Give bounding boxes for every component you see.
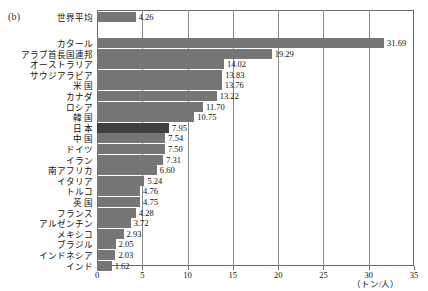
bar-20 — [97, 250, 115, 260]
bar-value-label: 13.22 — [220, 91, 239, 101]
bar-value-label: 4.75 — [143, 197, 158, 207]
bar-8 — [97, 123, 169, 133]
category-label-11: イラン — [0, 156, 93, 166]
plot-area: 4.2631.6919.2914.0213.8313.7613.2211.701… — [97, 10, 414, 266]
bar-value-label: 10.75 — [197, 112, 216, 122]
bar-row: 4.28 — [97, 208, 414, 218]
bar-value-label: 3.72 — [134, 218, 149, 228]
bar-6 — [97, 102, 203, 112]
bar-row: 2.05 — [97, 239, 414, 249]
x-tick-label: 10 — [183, 270, 192, 280]
category-label-14: トルコ — [0, 187, 93, 197]
bar-row: 7.95 — [97, 123, 414, 133]
category-label-21: インド — [0, 262, 93, 272]
bar-row: 3.72 — [97, 218, 414, 228]
category-label-16: フランス — [0, 209, 93, 219]
bar-1 — [97, 49, 272, 59]
bar-row: 13.83 — [97, 70, 414, 80]
bar-row: 6.60 — [97, 165, 414, 175]
x-tick-label: 5 — [140, 270, 144, 280]
bar-value-label: 11.70 — [206, 101, 225, 111]
category-label-8: 日 本 — [0, 124, 93, 134]
bar-row: 11.70 — [97, 102, 414, 112]
bar-10 — [97, 144, 165, 154]
bar-4 — [97, 80, 222, 90]
bar-row: 14.02 — [97, 59, 414, 69]
bar-value-label: 4.28 — [139, 207, 154, 217]
bar-row: 10.75 — [97, 112, 414, 122]
bar-value-label: 4.26 — [139, 12, 154, 22]
bar-18 — [97, 229, 124, 239]
category-label-13: イタリア — [0, 177, 93, 187]
x-tick-label: 25 — [319, 270, 328, 280]
category-label-15: 英 国 — [0, 198, 93, 208]
bar-value-label: 2.05 — [119, 239, 134, 249]
bar-row: 7.31 — [97, 155, 414, 165]
bar-13 — [97, 176, 144, 186]
category-label-18: メキシコ — [0, 230, 93, 240]
bar-row: 4.75 — [97, 197, 414, 207]
category-label-6: ロシア — [0, 103, 93, 113]
category-label-2: オーストラリア — [0, 60, 93, 70]
bar-row: 4.76 — [97, 186, 414, 196]
category-label-9: 中 国 — [0, 134, 93, 144]
category-label-17: アルゼンチン — [0, 219, 93, 229]
bar-value-label: 14.02 — [227, 59, 246, 69]
bar-2 — [97, 59, 224, 69]
bar-row: 2.93 — [97, 229, 414, 239]
bar-3 — [97, 70, 222, 80]
bar-row: 31.69 — [97, 38, 414, 48]
bar-row: 13.22 — [97, 91, 414, 101]
category-label-5: カナダ — [0, 92, 93, 102]
bar-value-label: 7.95 — [172, 123, 187, 133]
bar-15 — [97, 197, 140, 207]
category-label-20: インドネシア — [0, 251, 93, 261]
bar-value-label: 7.54 — [168, 133, 183, 143]
category-label-1: アラブ首長国連邦 — [0, 50, 93, 60]
category-label-3: サウジアラビア — [0, 71, 93, 81]
bar-row: 2.03 — [97, 250, 414, 260]
bar-value-label: 6.60 — [160, 165, 175, 175]
bar-row: 13.76 — [97, 80, 414, 90]
category-label-10: ドイツ — [0, 145, 93, 155]
bar-0 — [97, 38, 384, 48]
bar-row: 5.24 — [97, 176, 414, 186]
bar-value-label: 19.29 — [275, 48, 294, 58]
category-label-world-average: 世界平均 — [0, 13, 93, 23]
bar-row: 7.50 — [97, 144, 414, 154]
bar-19 — [97, 239, 116, 249]
category-label-4: 米 国 — [0, 81, 93, 91]
x-tick-label: 0 — [95, 270, 99, 280]
bar-9 — [97, 133, 165, 143]
bar-row: 7.54 — [97, 133, 414, 143]
bar-row: 19.29 — [97, 49, 414, 59]
bar-11 — [97, 155, 163, 165]
bar-world-average — [97, 12, 136, 22]
category-label-7: 韓 国 — [0, 113, 93, 123]
bar-value-label: 13.83 — [225, 70, 244, 80]
bar-12 — [97, 165, 157, 175]
bar-16 — [97, 208, 136, 218]
x-tick-label: 20 — [274, 270, 283, 280]
category-label-19: ブラジル — [0, 240, 93, 250]
bar-value-label: 13.76 — [225, 80, 244, 90]
category-label-0: カタール — [0, 39, 93, 49]
bar-14 — [97, 186, 140, 196]
category-label-12: 南アフリカ — [0, 166, 93, 176]
bar-5 — [97, 91, 217, 101]
bar-17 — [97, 218, 131, 228]
category-labels: 世界平均カタールアラブ首長国連邦オーストラリアサウジアラビア米 国カナダロシア韓… — [0, 0, 93, 291]
bar-7 — [97, 112, 194, 122]
bar-value-label: 7.31 — [166, 154, 181, 164]
chart-figure: (b) 世界平均カタールアラブ首長国連邦オーストラリアサウジアラビア米 国カナダ… — [0, 0, 428, 291]
bar-value-label: 2.93 — [127, 229, 142, 239]
bar-value-label: 5.24 — [147, 176, 162, 186]
x-tick-label: 15 — [229, 270, 238, 280]
x-tick-label: 35 — [410, 270, 419, 280]
bar-value-label: 4.76 — [143, 186, 158, 196]
bar-row: 4.26 — [97, 12, 414, 22]
x-axis-unit-label: （トン/人） — [352, 277, 399, 289]
bar-value-label: 2.03 — [118, 250, 133, 260]
bar-value-label: 7.50 — [168, 144, 183, 154]
bar-value-label: 31.69 — [387, 38, 406, 48]
